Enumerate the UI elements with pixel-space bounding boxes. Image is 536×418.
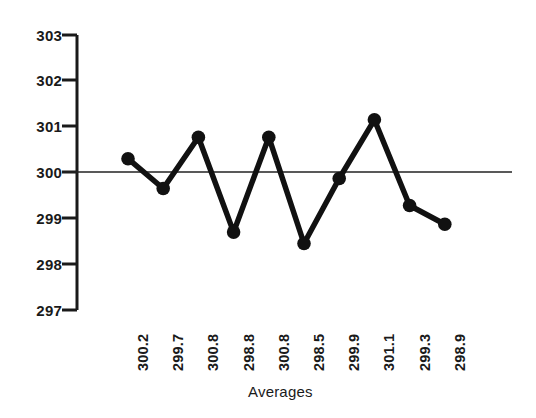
y-tick-label-299: 299 — [16, 210, 62, 227]
x-tick-label: 298.5 — [311, 334, 327, 371]
y-tick-label-300: 300 — [16, 164, 62, 181]
x-tick-label: 300.2 — [135, 334, 151, 371]
y-tick-label-297: 297 — [16, 302, 62, 319]
x-tick-label: 299.9 — [346, 334, 362, 371]
x-tick-label: 298.8 — [241, 334, 257, 371]
data-point — [227, 225, 241, 239]
data-point — [121, 152, 135, 166]
data-point — [368, 113, 382, 127]
data-point — [192, 130, 206, 144]
y-tick-label-301: 301 — [16, 118, 62, 135]
y-tick-label-302: 302 — [16, 72, 62, 89]
x-tick-label: 299.7 — [170, 334, 186, 371]
data-point — [262, 130, 276, 144]
data-series-line — [128, 120, 445, 244]
data-point — [438, 218, 452, 232]
x-tick-label: 300.8 — [205, 334, 221, 371]
x-tick-label: 301.1 — [381, 334, 397, 371]
x-axis-title: Averages — [248, 383, 313, 400]
x-tick-label: 300.8 — [276, 334, 292, 371]
line-chart: 303 302 301 300 299 298 297 300.2299.730… — [0, 0, 536, 418]
y-tick-label-303: 303 — [16, 27, 62, 44]
data-point — [156, 182, 170, 196]
x-tick-label: 299.3 — [417, 334, 433, 371]
y-tick-label-298: 298 — [16, 256, 62, 273]
data-point — [403, 199, 417, 213]
x-tick-label: 298.9 — [452, 334, 468, 371]
data-point — [297, 237, 311, 251]
data-point — [332, 172, 346, 186]
